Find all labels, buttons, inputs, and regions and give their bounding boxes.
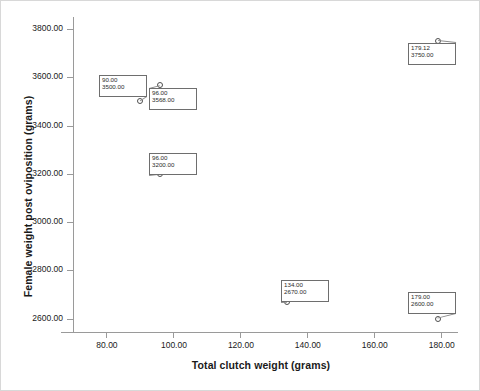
x-tick-label: 160.00 — [362, 340, 388, 350]
plot-area: 2600.002800.003000.003200.003400.003600.… — [73, 17, 458, 333]
x-tick: 80.00 — [106, 332, 107, 338]
x-tick: 160.00 — [374, 332, 375, 338]
data-label-box[interactable]: 179.002600.00 — [408, 292, 456, 314]
x-tick: 180.00 — [441, 332, 442, 338]
x-tick: 140.00 — [307, 332, 308, 338]
x-tick-label: 140.00 — [295, 340, 321, 350]
scatter-plot-figure: Female weight post oviposition (grams) T… — [0, 0, 480, 391]
data-label-box[interactable]: 96.003568.00 — [149, 88, 197, 110]
data-label-y-value: 3568.00 — [152, 97, 194, 104]
x-tick: 120.00 — [240, 332, 241, 338]
y-tick: 2800.00 — [67, 270, 73, 271]
y-tick-label: 3000.00 — [32, 216, 63, 226]
x-axis-line — [61, 332, 458, 333]
y-axis-title: Female weight post oviposition (grams) — [19, 1, 37, 391]
y-tick-label: 3600.00 — [32, 71, 63, 81]
y-tick: 3000.00 — [67, 222, 73, 223]
data-label-y-value: 3750.00 — [411, 52, 453, 59]
y-tick: 3800.00 — [67, 29, 73, 30]
x-tick: 100.00 — [173, 332, 174, 338]
x-tick-label: 100.00 — [161, 340, 187, 350]
data-label-box[interactable]: 134.002670.00 — [281, 280, 329, 302]
x-tick-label: 180.00 — [429, 340, 455, 350]
data-label-box[interactable]: 96.003200.00 — [149, 153, 197, 175]
x-tick-label: 120.00 — [228, 340, 254, 350]
y-tick-label: 2800.00 — [32, 264, 63, 274]
y-tick: 3200.00 — [67, 174, 73, 175]
data-label-box[interactable]: 179.123750.00 — [408, 43, 456, 65]
data-label-y-value: 3200.00 — [152, 162, 194, 169]
y-tick: 3600.00 — [67, 77, 73, 78]
data-label-y-value: 2670.00 — [284, 289, 326, 296]
y-axis-line — [73, 17, 74, 333]
x-axis-title: Total clutch weight (grams) — [61, 359, 461, 371]
data-label-y-value: 3500.00 — [102, 84, 144, 91]
y-tick-label: 3400.00 — [32, 120, 63, 130]
y-tick-label: 3800.00 — [32, 23, 63, 33]
y-tick-label: 2600.00 — [32, 313, 63, 323]
y-tick: 3400.00 — [67, 126, 73, 127]
data-label-box[interactable]: 90.003500.00 — [99, 75, 147, 97]
data-label-y-value: 2600.00 — [411, 301, 453, 308]
x-tick-label: 80.00 — [96, 340, 117, 350]
y-tick: 2600.00 — [67, 319, 73, 320]
y-tick-label: 3200.00 — [32, 168, 63, 178]
